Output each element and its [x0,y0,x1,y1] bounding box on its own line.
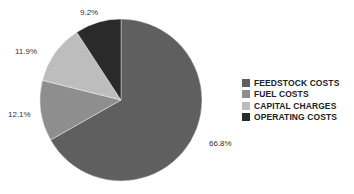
slice-percent-label: 12.1% [8,110,31,119]
legend-swatch [242,102,250,110]
pie-slices [40,19,202,181]
legend-label: FEEDSTOCK COSTS [254,78,339,88]
legend-label: FUEL COSTS [254,89,309,99]
legend-swatch [242,113,250,121]
legend-item-capital: CAPITAL CHARGES [242,100,339,112]
slice-percent-label: 66.8% [209,139,232,148]
legend-item-operating: OPERATING COSTS [242,112,339,124]
slice-percent-label: 11.9% [15,47,37,56]
legend-label: OPERATING COSTS [254,112,337,122]
legend-swatch [242,90,250,98]
legend-item-fuel: FUEL COSTS [242,89,339,101]
legend-label: CAPITAL CHARGES [254,101,336,111]
slice-percent-label: 9.2% [80,8,98,17]
legend-swatch [242,79,250,87]
legend-item-feedstock: FEEDSTOCK COSTS [242,77,339,89]
legend: FEEDSTOCK COSTS FUEL COSTS CAPITAL CHARG… [242,77,339,123]
